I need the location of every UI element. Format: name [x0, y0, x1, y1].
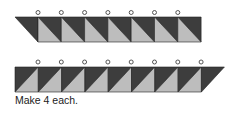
seam-marker-icon: [199, 60, 203, 64]
end-triangle: [201, 67, 224, 92]
seam-marker-icon: [83, 60, 87, 64]
seam-marker-icon: [59, 60, 63, 64]
seam-marker-icon: [106, 60, 110, 64]
seam-marker-icon: [129, 11, 133, 15]
seam-marker-icon: [36, 11, 40, 15]
seam-marker-icon: [176, 11, 180, 15]
seam-marker-icon: [36, 60, 40, 64]
top-strip: [15, 11, 201, 43]
seam-marker-icon: [83, 11, 87, 15]
seam-marker-icon: [129, 60, 133, 64]
end-triangle: [15, 17, 38, 42]
seam-marker-icon: [106, 11, 110, 15]
seam-marker-icon: [153, 60, 157, 64]
seam-marker-icon: [59, 11, 63, 15]
caption: Make 4 each.: [15, 94, 78, 106]
seam-marker-icon: [176, 60, 180, 64]
bottom-strip: [15, 60, 224, 92]
seam-marker-icon: [153, 11, 157, 15]
